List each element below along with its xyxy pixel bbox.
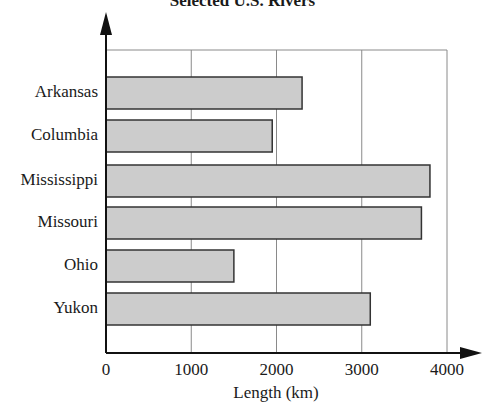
y-axis-arrow-icon — [100, 12, 112, 35]
x-axis-arrow-icon — [460, 347, 482, 359]
x-tick-4000: 4000 — [430, 360, 464, 380]
y-label-columbia: Columbia — [31, 125, 98, 145]
bar-missouri — [106, 207, 421, 239]
y-label-mississippi: Mississippi — [21, 170, 98, 190]
bar-mississippi — [106, 165, 430, 197]
y-label-arkansas: Arkansas — [35, 82, 98, 102]
y-label-yukon: Yukon — [54, 298, 98, 318]
bar-columbia — [106, 120, 272, 152]
x-tick-3000: 3000 — [345, 360, 379, 380]
x-tick-2000: 2000 — [260, 360, 294, 380]
x-axis-label: Length (km) — [233, 383, 318, 403]
x-tick-0: 0 — [102, 360, 111, 380]
y-label-ohio: Ohio — [64, 255, 98, 275]
bar-arkansas — [106, 77, 302, 109]
bar-chart — [0, 0, 485, 412]
bar-ohio — [106, 250, 234, 282]
x-tick-1000: 1000 — [174, 360, 208, 380]
bar-yukon — [106, 293, 370, 325]
y-label-missouri: Missouri — [38, 212, 98, 232]
